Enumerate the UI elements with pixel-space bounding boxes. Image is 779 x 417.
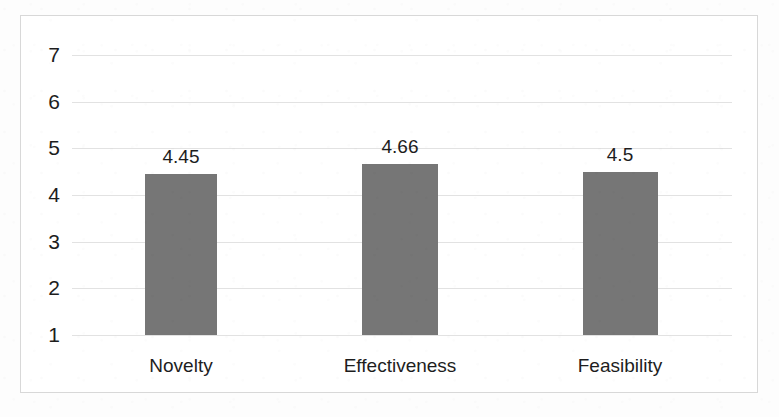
x-axis-label-feasibility: Feasibility (520, 356, 720, 375)
x-axis-label-effectiveness: Effectiveness (300, 356, 500, 375)
bar-value-label-novelty: 4.45 (121, 147, 241, 166)
bar-value-label-feasibility: 4.5 (560, 145, 680, 164)
y-axis-tick-7: 7 (20, 44, 60, 65)
gridline-6 (72, 102, 732, 103)
y-axis-tick-4: 4 (20, 184, 60, 205)
bar-novelty[interactable] (145, 174, 217, 335)
bar-effectiveness[interactable] (362, 164, 438, 335)
plot-area: 7 6 5 4 3 2 1 4.45 4.66 4.5 Novelty Effe… (0, 0, 779, 417)
bar-value-label-effectiveness: 4.66 (340, 137, 460, 156)
y-axis-tick-2: 2 (20, 277, 60, 298)
y-axis-tick-5: 5 (20, 137, 60, 158)
gridline-1-baseline (72, 335, 732, 336)
y-axis-tick-1: 1 (20, 324, 60, 345)
x-axis-label-novelty: Novelty (81, 356, 281, 375)
y-axis-tick-6: 6 (20, 91, 60, 112)
bar-feasibility[interactable] (583, 172, 658, 335)
bar-chart-figure: 7 6 5 4 3 2 1 4.45 4.66 4.5 Novelty Effe… (0, 0, 779, 417)
y-axis-tick-3: 3 (20, 231, 60, 252)
gridline-7 (72, 55, 732, 56)
